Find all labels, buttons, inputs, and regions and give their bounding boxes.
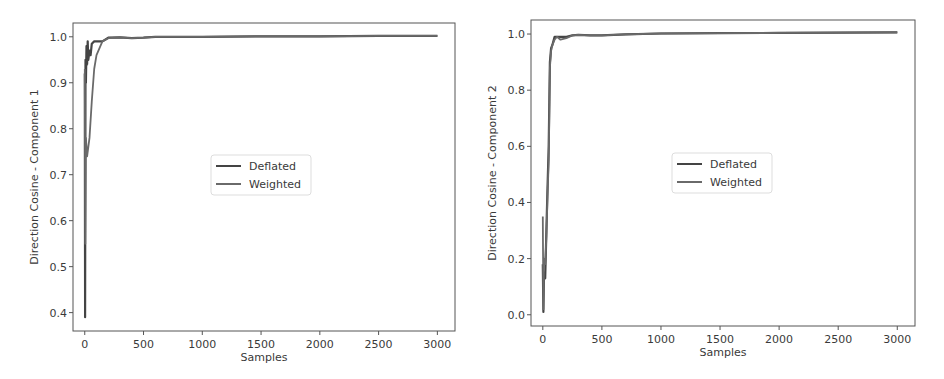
x-axis-label: Samples — [241, 351, 288, 364]
legend: DeflatedWeighted — [211, 155, 311, 195]
x-tick-label: 1500 — [247, 338, 275, 351]
y-tick-label: 1.0 — [508, 28, 526, 41]
legend-label-deflated: Deflated — [710, 158, 757, 171]
chart-component-1: 0500100015002000250030000.40.50.60.70.80… — [0, 0, 470, 379]
y-tick-label: 0.8 — [508, 84, 526, 97]
series-line-weighted — [85, 36, 438, 244]
x-tick-label: 1000 — [647, 333, 675, 346]
y-tick-label: 0.6 — [50, 215, 68, 228]
legend-label-weighted: Weighted — [249, 178, 301, 191]
y-tick-label: 0.7 — [50, 169, 68, 182]
y-tick-label: 0.2 — [508, 253, 526, 266]
x-tick-label: 0 — [539, 333, 546, 346]
x-tick-label: 2000 — [765, 333, 793, 346]
y-axis-label: Direction Cosine - Component 2 — [486, 85, 499, 260]
x-tick-label: 1000 — [188, 338, 216, 351]
x-tick-label: 0 — [81, 338, 88, 351]
y-tick-label: 0.9 — [50, 77, 68, 90]
x-tick-label: 3000 — [883, 333, 911, 346]
chart-svg-component-1: 0500100015002000250030000.40.50.60.70.80… — [0, 0, 470, 379]
x-axis-label: Samples — [700, 346, 747, 359]
x-tick-label: 500 — [133, 338, 154, 351]
legend: DeflatedWeighted — [672, 153, 772, 193]
chart-svg-component-2: 0500100015002000250030000.00.20.40.60.81… — [470, 0, 944, 379]
x-tick-label: 2500 — [824, 333, 852, 346]
y-tick-label: 0.5 — [50, 261, 68, 274]
legend-label-weighted: Weighted — [710, 176, 762, 189]
x-tick-label: 500 — [591, 333, 612, 346]
y-axis-label: Direction Cosine - Component 1 — [28, 89, 41, 264]
x-tick-label: 1500 — [706, 333, 734, 346]
y-tick-label: 0.4 — [50, 307, 68, 320]
x-tick-label: 2500 — [365, 338, 393, 351]
y-tick-label: 0.8 — [50, 123, 68, 136]
y-tick-label: 0.6 — [508, 140, 526, 153]
legend-label-deflated: Deflated — [249, 160, 296, 173]
x-tick-label: 3000 — [423, 338, 451, 351]
y-tick-label: 0.0 — [508, 309, 526, 322]
y-tick-label: 0.4 — [508, 196, 526, 209]
x-tick-label: 2000 — [306, 338, 334, 351]
y-tick-label: 1.0 — [50, 31, 68, 44]
chart-component-2: 0500100015002000250030000.00.20.40.60.81… — [470, 0, 944, 379]
